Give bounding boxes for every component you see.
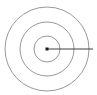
- diagram-canvas: [0, 0, 97, 95]
- concentric-circles-diagram: [0, 0, 97, 95]
- center-point-marker: [46, 48, 49, 51]
